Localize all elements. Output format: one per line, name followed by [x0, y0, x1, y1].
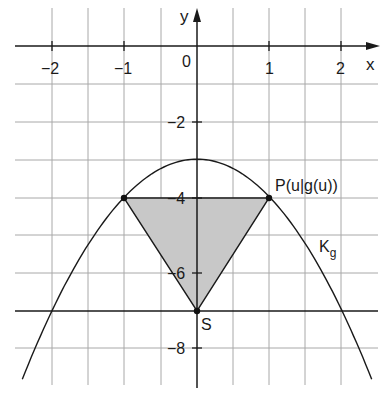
x-tick-label-minus-1: −1: [114, 60, 132, 77]
point-s-label: S: [201, 316, 212, 333]
y-tick-label-minus-4: −4: [167, 190, 185, 207]
y-axis-label: y: [180, 7, 189, 26]
point-p-mirror: [121, 195, 127, 201]
point-p-label: P(u|g(u)): [275, 177, 338, 194]
y-tick-label-minus-2: −2: [167, 114, 185, 131]
x-axis-arrow-icon: [366, 42, 380, 50]
x-tick-label-2: 2: [336, 60, 345, 77]
y-tick-label-minus-6: −6: [167, 265, 185, 282]
curve-label: Kg: [319, 238, 336, 260]
y-axis-arrow-icon: [193, 8, 201, 22]
point-s: [194, 308, 200, 314]
x-axis-label: x: [366, 55, 375, 74]
x-tick-label-minus-2: −2: [41, 60, 59, 77]
coordinate-diagram: x y 0 −2 −1 1 2 −2 −4 −6 −8 P(u|g(u)) S …: [0, 0, 390, 408]
y-tick-label-minus-8: −8: [167, 340, 185, 357]
x-tick-label-1: 1: [265, 60, 274, 77]
point-p: [266, 195, 272, 201]
origin-label: 0: [182, 53, 191, 70]
